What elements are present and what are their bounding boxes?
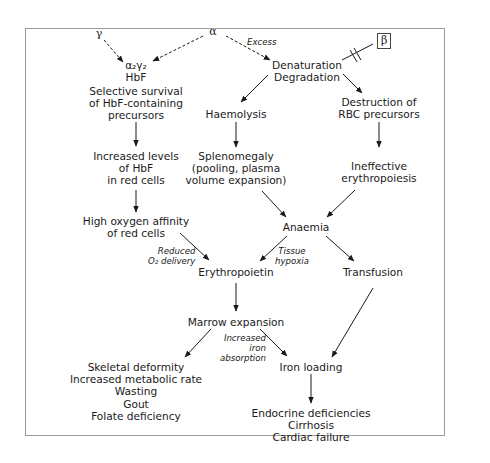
node-text: Skeletal deformity: [70, 361, 202, 373]
beta-gene-box: β: [377, 33, 391, 49]
node-increased-hbf: Increased levels of HbF in red cells: [93, 150, 179, 187]
edge-transfusion-iron: [332, 288, 373, 357]
node-text: Transfusion: [343, 266, 403, 278]
node-iron-loading: Iron loading: [280, 361, 343, 373]
node-selective-survival: Selective survival of HbF-containing pre…: [89, 85, 183, 122]
node-text: Erythropoietin: [198, 266, 273, 278]
edge-label-increased-iron: Increased iron absorption: [220, 334, 266, 363]
node-ineffective-erythropoiesis: Ineffective erythropoiesis: [341, 160, 416, 184]
node-text: RBC precursors: [338, 108, 419, 120]
node-text: Selective survival: [89, 85, 183, 97]
node-text: Folate deficiency: [70, 410, 202, 422]
gamma-gene-label: γ: [96, 27, 103, 40]
node-text: High oxygen affinity: [83, 215, 190, 227]
node-text: of red cells: [83, 227, 190, 239]
edge-label-text: hypoxia: [275, 257, 309, 267]
node-text: Cirrhosis: [251, 419, 370, 431]
node-text: Anaemia: [283, 221, 330, 233]
node-text: Destruction of: [338, 96, 419, 108]
edge-splenomegaly-anaemia: [262, 191, 286, 217]
edge-alpha-hbf: [153, 36, 203, 61]
node-text: Increased levels: [93, 150, 179, 162]
edge-denaturation-destruction: [343, 74, 362, 93]
hbf-label: HbF: [125, 71, 147, 83]
edge-label-text: absorption: [220, 354, 266, 364]
node-text: Cardiac failure: [251, 431, 370, 443]
edge-beta-denaturation: [342, 44, 373, 60]
edge-anaemia-transfusion: [326, 236, 354, 261]
edge-marrow-skeletal: [185, 329, 211, 357]
node-marrow-expansion: Marrow expansion: [188, 316, 285, 328]
node-denaturation: Denaturation Degradation: [272, 59, 342, 83]
node-text: erythropoiesis: [341, 172, 416, 184]
node-skeletal-effects: Skeletal deformity Increased metabolic r…: [70, 361, 202, 422]
edge-label-excess: Excess: [247, 38, 276, 48]
node-text: of HbF: [93, 162, 179, 174]
edge-gamma-hbf: [104, 40, 123, 62]
node-text: volume expansion): [186, 174, 287, 186]
node-text: Increased metabolic rate: [70, 373, 202, 385]
node-haemolysis: Haemolysis: [206, 108, 267, 120]
node-text: Haemolysis: [206, 108, 267, 120]
node-text: Iron loading: [280, 361, 343, 373]
node-destruction-rbc: Destruction of RBC precursors: [338, 96, 419, 120]
hbf-formula: α₂γ₂: [125, 59, 147, 71]
node-text: Denaturation: [272, 59, 342, 71]
node-text: Degradation: [272, 71, 342, 83]
node-text: Splenomegaly: [186, 150, 287, 162]
node-anaemia: Anaemia: [283, 221, 330, 233]
edge-label-tissue-hypoxia: Tissue hypoxia: [275, 247, 309, 267]
edge-label-reduced-o2: Reduced O₂ delivery: [148, 247, 195, 267]
node-text: Wasting: [70, 385, 202, 397]
edge-label-text: Excess: [247, 38, 276, 48]
node-high-oxygen-affinity: High oxygen affinity of red cells: [83, 215, 190, 239]
node-erythropoietin: Erythropoietin: [198, 266, 273, 278]
node-text: precursors: [89, 109, 183, 121]
node-text: of HbF-containing: [89, 97, 183, 109]
node-text: Gout: [70, 398, 202, 410]
edge-ineffective-anaemia: [327, 190, 355, 217]
node-text: in red cells: [93, 174, 179, 186]
node-transfusion: Transfusion: [343, 266, 403, 278]
node-text: Endocrine deficiencies: [251, 407, 370, 419]
node-text: (pooling, plasma: [186, 162, 287, 174]
node-organ-damage: Endocrine deficiencies Cirrhosis Cardiac…: [251, 407, 370, 444]
node-text: Marrow expansion: [188, 316, 285, 328]
edge-denaturation-haemolysis: [241, 75, 268, 102]
node-hbf-formula: α₂γ₂ HbF: [125, 59, 147, 83]
edge-label-text: O₂ delivery: [148, 257, 195, 267]
node-splenomegaly: Splenomegaly (pooling, plasma volume exp…: [186, 150, 287, 187]
node-text: Ineffective: [341, 160, 416, 172]
alpha-gene-label: α: [209, 25, 216, 38]
